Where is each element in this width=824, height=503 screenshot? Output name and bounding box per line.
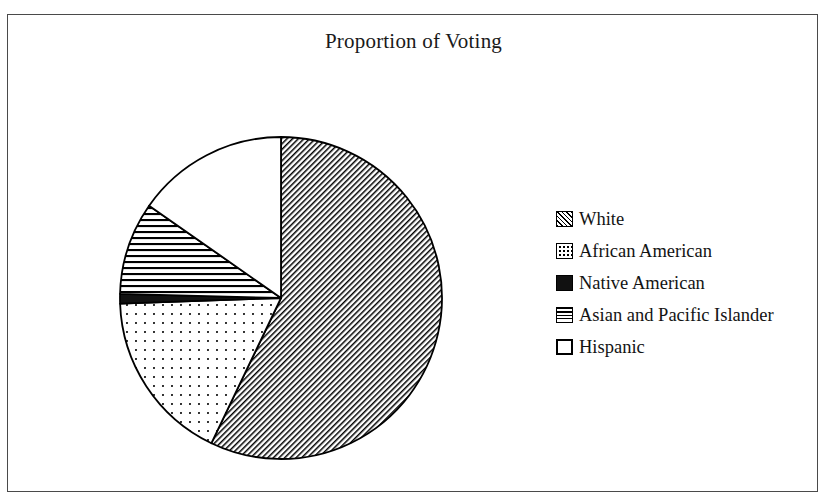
dotted-swatch-icon (556, 243, 573, 259)
legend-label: Hispanic (579, 338, 645, 357)
legend-item-hispanic[interactable]: Hispanic (556, 331, 818, 363)
legend-item-native-american[interactable]: Native American (556, 267, 818, 299)
legend-label: African American (579, 242, 712, 261)
legend-item-african-american[interactable]: African American (556, 235, 818, 267)
chart-legend: White African American Native American A… (556, 203, 818, 363)
horizontal-lines-swatch-icon (556, 307, 573, 323)
empty-swatch-icon (556, 339, 573, 355)
legend-label: Asian and Pacific Islander (579, 306, 774, 325)
pie-chart (8, 15, 528, 493)
legend-label: White (579, 210, 624, 229)
solid-swatch-icon (556, 275, 573, 291)
hatch-swatch-icon (556, 211, 573, 227)
pie-svg (8, 15, 528, 493)
pie-slices (120, 137, 442, 459)
legend-label: Native American (579, 274, 705, 293)
legend-item-asian-pacific-islander[interactable]: Asian and Pacific Islander (556, 299, 818, 331)
legend-item-white[interactable]: White (556, 203, 818, 235)
chart-frame: Proportion of Voting (7, 14, 818, 492)
